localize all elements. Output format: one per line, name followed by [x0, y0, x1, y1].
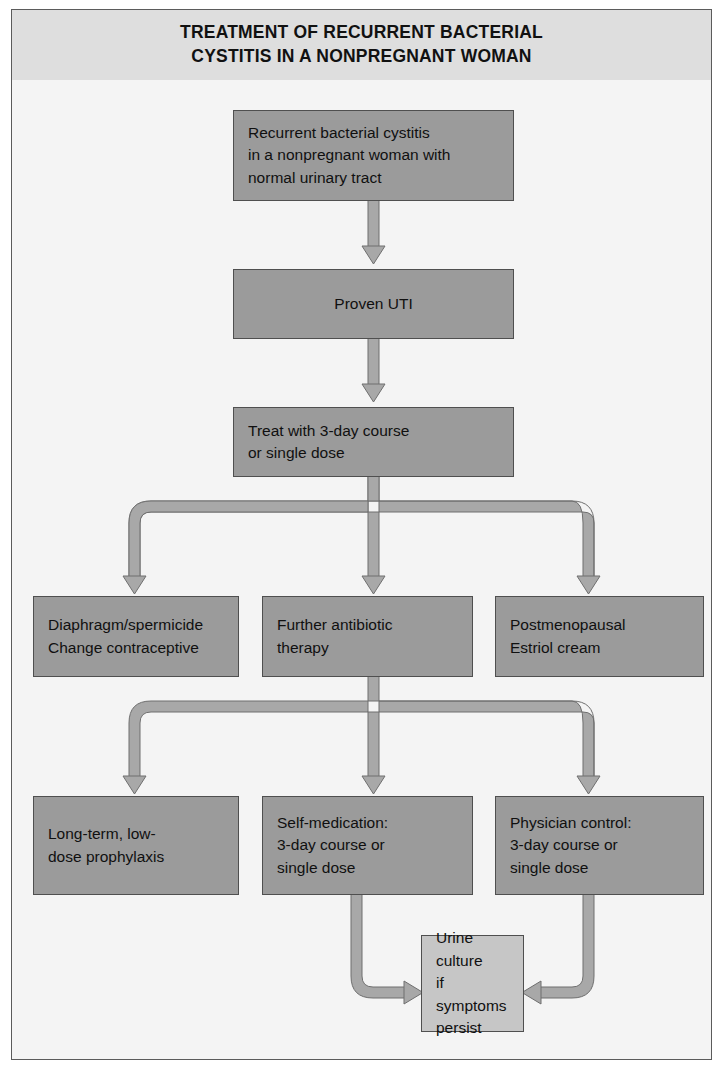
edge-split-level-4	[123, 676, 600, 794]
flowchart-canvas: Recurrent bacterial cystitis in a nonpre…	[12, 80, 710, 1058]
node-diaphragm-spermicide[interactable]: Diaphragm/spermicide Change contraceptiv…	[33, 596, 239, 677]
node-proven-uti[interactable]: Proven UTI	[233, 269, 514, 339]
title-bar: TREATMENT OF RECURRENT BACTERIAL CYSTITI…	[12, 10, 711, 80]
diagram-frame: TREATMENT OF RECURRENT BACTERIAL CYSTITI…	[11, 9, 712, 1060]
edge-n1-n2	[362, 200, 385, 264]
edge-n8-n10	[351, 894, 423, 1004]
edge-n9-n10	[522, 894, 594, 1004]
page-title: TREATMENT OF RECURRENT BACTERIAL CYSTITI…	[180, 21, 543, 68]
connector-layer	[12, 80, 710, 1058]
node-long-term-prophylaxis[interactable]: Long-term, low- dose prophylaxis	[33, 796, 239, 895]
edge-split-level-3	[123, 476, 600, 594]
node-further-antibiotic-therapy[interactable]: Further antibiotic therapy	[262, 596, 473, 677]
diagram-page: TREATMENT OF RECURRENT BACTERIAL CYSTITI…	[0, 0, 725, 1078]
node-postmenopausal-estriol[interactable]: Postmenopausal Estriol cream	[495, 596, 704, 677]
node-physician-control[interactable]: Physician control: 3-day course or singl…	[495, 796, 704, 895]
edge-n2-n3	[362, 338, 385, 402]
node-self-medication[interactable]: Self-medication: 3-day course or single …	[262, 796, 473, 895]
node-recurrent-cystitis[interactable]: Recurrent bacterial cystitis in a nonpre…	[233, 110, 514, 201]
node-treat-3day-course[interactable]: Treat with 3-day course or single dose	[233, 407, 514, 477]
node-urine-culture[interactable]: Urine culture if symptoms persist	[421, 935, 524, 1032]
